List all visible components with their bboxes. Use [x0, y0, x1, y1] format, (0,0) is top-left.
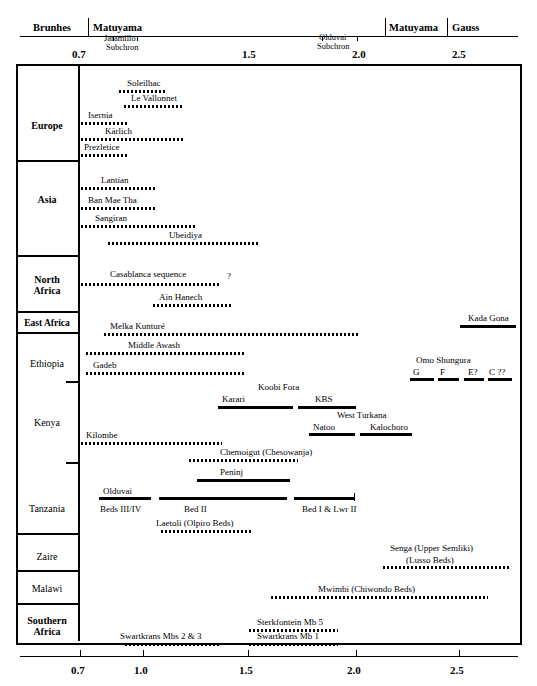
- site-bar-natoo: [309, 433, 355, 436]
- site-label-prezletice: Prezletice: [84, 142, 119, 152]
- chron-divider-2: [385, 18, 386, 36]
- chronology-chart: Brunhes Matuyama Matuyama Gauss Jaramill…: [0, 0, 537, 686]
- chron-label-matuyama-right: Matuyama: [389, 22, 438, 33]
- site-bar-casablanca: [80, 283, 221, 286]
- site-label-senga: Senga (Upper Semliki): [390, 543, 473, 553]
- site-bar-omo-c: [488, 378, 512, 381]
- site-label-casablanca: Casablanca sequence: [110, 269, 186, 279]
- site-label-chemoigut: Chemoigut (Chesowanja): [220, 447, 312, 457]
- site-bar-ain-hanech: [152, 304, 231, 307]
- site-label-isernia: Isernia: [88, 110, 113, 120]
- site-bar-ban-mae-tha: [80, 207, 156, 210]
- site-label-lantian: Lantian: [101, 175, 129, 185]
- site-bar-bed-i-end-tick: [354, 493, 355, 501]
- site-label-kbs: KBS: [315, 394, 333, 404]
- region-label-east-africa: East Africa: [16, 318, 78, 328]
- region-label-europe: Europe: [18, 120, 76, 131]
- site-bar-omo-e: [464, 378, 484, 381]
- site-bar-karlich: [80, 138, 184, 141]
- site-bar-le-vallonnet: [123, 105, 183, 108]
- region-label-zaire: Zaire: [18, 551, 76, 562]
- chron-label-matuyama-left: Matuyama: [93, 22, 142, 33]
- site-bar-prezletice: [80, 154, 129, 157]
- site-label-west-turkana: West Turkana: [337, 410, 387, 420]
- region-label-kenya: Kenya: [18, 417, 76, 428]
- site-bar-omo-g: [410, 378, 434, 381]
- region-sep-zaire: [16, 570, 78, 572]
- site-label-omo-shungura: Omo Shungura: [416, 355, 471, 365]
- site-label-kada-gona: Kada Gona: [468, 313, 509, 323]
- site-bar-bed-i-lwr-ii: [294, 497, 354, 500]
- site-label-beds-iii-iv: Beds III/IV: [100, 504, 141, 514]
- site-bar-omo-f: [438, 378, 459, 381]
- bottom-tick-mark-0-7: [80, 650, 81, 656]
- site-label-bed-ii: Bed II: [184, 504, 207, 514]
- site-label-le-vallonnet: Le Vallonnet: [131, 93, 177, 103]
- region-label-tanzania: Tanzania: [18, 503, 76, 514]
- region-sep-malawi: [16, 603, 78, 605]
- site-bar-gadeb: [85, 372, 245, 375]
- region-sep-asia: [16, 255, 78, 257]
- site-bar-bed-ii: [159, 497, 287, 500]
- site-label-swartkrans-mbs23: Swartkrans Mbs 2 & 3: [120, 631, 202, 641]
- site-label-ubeidiya: Ubeidiya: [169, 230, 202, 240]
- site-label-middle-awash: Middle Awash: [128, 340, 180, 350]
- top-axis-line: [20, 36, 518, 37]
- region-sep-north-africa: [16, 311, 78, 313]
- bottom-tick-2-0: 2.0: [347, 664, 361, 676]
- chron-divider-1: [88, 18, 89, 36]
- site-label-koobi-fora: Koobi Fora: [258, 382, 299, 392]
- site-bar-melka-kuntur: [103, 333, 360, 336]
- bottom-tick-mark-2-5: [459, 650, 460, 656]
- site-label-ain-hanech: Aïn Hanech: [159, 292, 202, 302]
- jaramillo-tick-right: [137, 36, 138, 41]
- site-label-kalochoro: Kalochoro: [370, 422, 408, 432]
- jaramillo-label-line2: Subchron: [106, 42, 139, 52]
- top-tick-1-5: 1.5: [242, 48, 256, 60]
- site-bar-isernia: [80, 122, 129, 125]
- region-label-southern-africa: SouthernAfrica: [18, 615, 76, 637]
- region-column-divider: [78, 66, 80, 641]
- site-label-kilombe: Kilombe: [86, 430, 118, 440]
- site-bar-kalochoro: [360, 433, 412, 436]
- region-sep-tanzania: [16, 533, 78, 535]
- site-label-olduvai: Olduvai: [103, 486, 132, 496]
- site-bar-beds-iii-iv: [99, 497, 151, 500]
- site-label-gadeb: Gadeb: [93, 360, 117, 370]
- top-tick-0-7: 0.7: [72, 48, 86, 60]
- region-sep-kenya: [66, 462, 78, 464]
- site-label-peninj: Peninj: [220, 467, 243, 477]
- site-bar-kada-gona: [460, 325, 516, 328]
- site-label-sterkfontein-mb5: Sterkfontein Mb 5: [257, 617, 323, 627]
- olduvai-label-line2: Subchron: [317, 41, 350, 51]
- site-label-laetoli: Laetoli (Olpiro Beds): [156, 518, 233, 528]
- site-bar-ubeidiya: [107, 242, 259, 245]
- site-label-soleilhac: Soleilhac: [127, 78, 161, 88]
- site-label-natoo: Natoo: [313, 422, 335, 432]
- site-bar-mwimbi: [270, 596, 488, 599]
- site-label-melka-kuntur: Melka Kunturé: [110, 321, 165, 331]
- region-label-asia: Asia: [18, 194, 76, 205]
- site-label-karari: Karari: [222, 394, 245, 404]
- site-label-omo-g: G: [413, 367, 420, 377]
- site-label-karlich: Kärlich: [105, 126, 132, 136]
- site-bar-kilombe: [80, 442, 222, 445]
- site-label-lusso-beds: (Lusso Beds): [406, 555, 454, 565]
- site-bar-lantian: [80, 187, 156, 190]
- site-bar-swartkrans-mbs23: [124, 643, 221, 646]
- bottom-tick-1-0: 1.0: [134, 664, 148, 676]
- site-label-bed-i-lwr-ii: Bed I & Lwr II: [302, 504, 356, 514]
- top-tick-2-0: 2.0: [352, 48, 366, 60]
- bottom-tick-1-5: 1.5: [239, 664, 253, 676]
- site-label-sangiran: Sangiran: [95, 213, 127, 223]
- region-sep-europe: [16, 160, 78, 162]
- site-bar-sangiran: [80, 225, 195, 228]
- region-sep-east-africa: [16, 332, 78, 334]
- bottom-axis-line: [20, 656, 518, 657]
- chron-label-gauss: Gauss: [452, 22, 479, 33]
- site-label-mwimbi: Mwimbi (Chiwondo Beds): [318, 584, 415, 594]
- region-label-north-africa: NorthAfrica: [18, 274, 76, 296]
- bottom-tick-mark-1-5: [248, 650, 249, 656]
- site-label-omo-f: F: [440, 367, 445, 377]
- bottom-tick-mark-2-0: [356, 650, 357, 656]
